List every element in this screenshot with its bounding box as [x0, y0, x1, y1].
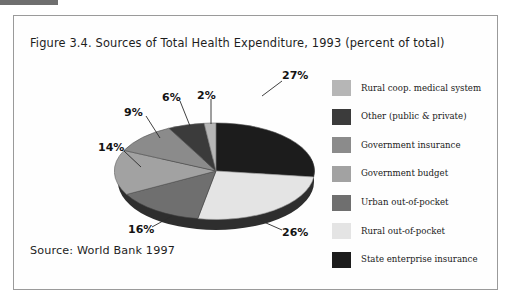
legend-swatch-icon: [332, 252, 351, 268]
legend-item-label: Rural out-of-pocket: [361, 227, 445, 236]
chart-legend: Rural coop. medical system Other (public…: [332, 74, 512, 274]
pie-slice-rural-out-of-pocket: [198, 171, 314, 219]
legend-item-label: Government insurance: [361, 141, 460, 150]
pie-chart: 27% 26% 16% 14% 9% 6% 2%: [114, 64, 319, 239]
legend-item-state-enterprise-insurance: State enterprise insurance: [332, 246, 512, 275]
pie-label-2: 2%: [197, 89, 216, 102]
legend-item-label: Government budget: [361, 169, 448, 178]
pie-top-face: [114, 123, 314, 219]
legend-item-urban-out-of-pocket: Urban out-of-pocket: [332, 188, 512, 217]
legend-item-rural-out-of-pocket: Rural out-of-pocket: [332, 217, 512, 246]
legend-swatch-icon: [332, 137, 351, 153]
legend-item-label: State enterprise insurance: [361, 255, 477, 264]
pie-label-6: 6%: [162, 91, 181, 104]
pie-label-16: 16%: [128, 223, 154, 236]
figure-title: Figure 3.4. Sources of Total Health Expe…: [30, 36, 445, 50]
legend-swatch-icon: [332, 166, 351, 182]
pie-label-14: 14%: [98, 141, 124, 154]
scan-artifact: [0, 0, 58, 5]
legend-item-rural-coop-medical-system: Rural coop. medical system: [332, 74, 512, 103]
legend-swatch-icon: [332, 80, 351, 96]
legend-item-government-budget: Government budget: [332, 160, 512, 189]
legend-item-label: Urban out-of-pocket: [361, 198, 449, 207]
legend-swatch-icon: [332, 109, 351, 125]
legend-item-other-public-private: Other (public & private): [332, 103, 512, 132]
pie-label-26: 26%: [282, 226, 308, 239]
legend-swatch-icon: [332, 195, 351, 211]
figure-source: Source: World Bank 1997: [30, 244, 175, 257]
legend-swatch-icon: [332, 223, 351, 239]
figure-frame: Figure 3.4. Sources of Total Health Expe…: [13, 15, 498, 290]
legend-item-government-insurance: Government insurance: [332, 131, 512, 160]
pie-chart-svg: [114, 64, 319, 239]
legend-item-label: Rural coop. medical system: [361, 84, 481, 93]
pie-label-27: 27%: [282, 69, 308, 82]
figure-page: Figure 3.4. Sources of Total Health Expe…: [0, 0, 513, 307]
legend-item-label: Other (public & private): [361, 112, 467, 121]
pie-label-9: 9%: [124, 106, 143, 119]
pie-slice-state-enterprise-insurance: [216, 123, 314, 177]
